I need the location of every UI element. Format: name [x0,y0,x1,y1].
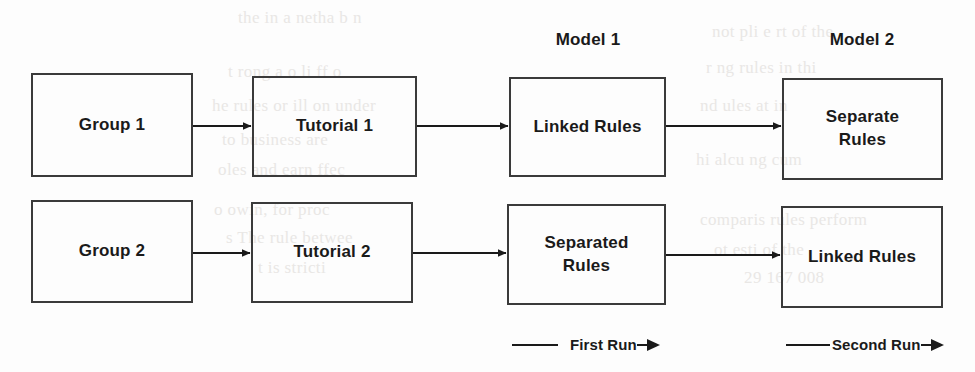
legend-arrow-icon [921,339,945,351]
diagram-canvas: the in a netha b nt rong a o li ff ohe r… [0,0,975,372]
node-separate-rules[interactable]: Separate Rules [782,78,943,180]
legend-label: First Run [570,336,637,353]
node-tutorial-2[interactable]: Tutorial 2 [251,202,413,303]
node-group-1[interactable]: Group 1 [31,73,193,177]
node-label: Tutorial 2 [293,241,370,264]
node-linked-rules-1[interactable]: Linked Rules [509,77,666,177]
legend-line-segment [786,344,830,346]
node-label: Separated Rules [544,232,628,278]
node-label: Group 1 [79,114,146,137]
connector-arrows [0,0,975,372]
node-label: Linked Rules [808,246,916,269]
node-label: Separate Rules [826,106,899,152]
node-group-2[interactable]: Group 2 [31,200,193,303]
legend-first-run: First Run [512,336,661,353]
node-label: Tutorial 1 [296,115,373,138]
node-separated-rules[interactable]: Separated Rules [507,204,666,305]
node-tutorial-1[interactable]: Tutorial 1 [252,76,417,177]
legend-arrow-icon [637,339,661,351]
legend-label: Second Run [832,336,921,353]
node-linked-rules-2[interactable]: Linked Rules [781,206,943,308]
node-label: Group 2 [79,240,146,263]
legend-second-run: Second Run [786,336,945,353]
legend-line-segment [512,344,558,346]
node-label: Linked Rules [533,116,641,139]
